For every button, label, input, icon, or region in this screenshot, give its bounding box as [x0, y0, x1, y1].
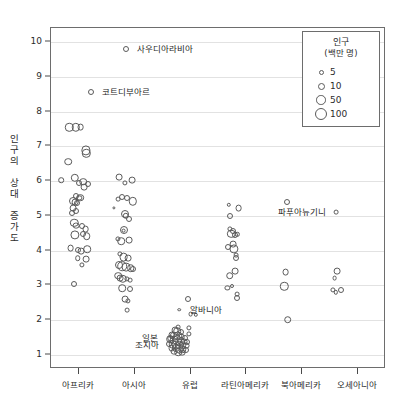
data-point: [284, 199, 290, 205]
data-point: [129, 197, 137, 205]
x-tick-label-2: 아시아: [122, 378, 146, 390]
annotation-파푸아뉴기니: 파푸아뉴기니: [278, 205, 326, 217]
data-point: [179, 349, 186, 356]
data-point: [333, 210, 338, 215]
data-point: [112, 207, 115, 210]
data-point: [125, 307, 130, 312]
gridline: [51, 320, 384, 321]
data-point: [280, 282, 288, 290]
annotation-코트디부아르: 코트디부아르: [102, 85, 150, 97]
data-point: [71, 281, 77, 287]
x-tick-mark: [301, 368, 302, 374]
legend-row: 50: [312, 93, 379, 107]
y-tick-label: 1: [0, 349, 50, 359]
x-tick-label-6: 오세아니아: [337, 378, 377, 390]
legend-row: 100: [312, 107, 379, 121]
data-point: [123, 46, 129, 52]
annotation-조지아: 조지아: [135, 338, 159, 350]
data-point: [235, 232, 239, 236]
y-tick-label: 3: [0, 279, 50, 289]
gridline: [51, 146, 384, 147]
data-point: [118, 237, 126, 245]
data-point: [65, 158, 73, 166]
data-point: [338, 287, 344, 293]
data-point: [58, 178, 64, 184]
data-point: [227, 213, 233, 219]
data-point: [76, 194, 84, 202]
data-point: [75, 256, 81, 262]
data-point: [332, 275, 337, 280]
data-point: [81, 184, 88, 191]
data-point: [226, 203, 230, 207]
data-point: [83, 245, 91, 253]
data-point: [235, 205, 242, 212]
legend-label: 5: [330, 67, 336, 77]
data-point: [282, 269, 289, 276]
x-tick-mark: [134, 368, 135, 374]
data-point: [116, 174, 123, 181]
x-tick-label-4: 라틴아메리카: [221, 378, 269, 390]
y-axis-label-char: [6, 199, 22, 210]
y-tick-label: 5: [0, 210, 50, 220]
data-point: [186, 325, 191, 330]
data-point: [333, 267, 340, 274]
x-tick-mark: [190, 368, 191, 374]
gridline: [51, 251, 384, 252]
gridline: [51, 216, 384, 217]
data-point: [186, 332, 191, 337]
legend-bullet-wrap: [312, 83, 330, 90]
y-axis-label-char: 도: [6, 232, 22, 243]
y-tick-label: 10: [0, 36, 50, 46]
x-tick-mark: [357, 368, 358, 374]
data-point: [130, 266, 136, 272]
gridline: [51, 181, 384, 182]
data-point: [67, 245, 74, 252]
data-point: [234, 295, 240, 301]
legend-label: 50: [330, 95, 341, 105]
data-point: [126, 216, 132, 222]
legend-label: 10: [330, 81, 341, 91]
scatter-chart: 인구의 상대 증가도 10987654321 사우디아라비아코트디부아르파푸아뉴…: [0, 0, 405, 417]
data-point: [129, 177, 136, 184]
legend-subtitle: (백만 명): [303, 48, 379, 59]
legend-circle-icon: [319, 70, 324, 75]
data-point: [88, 89, 94, 95]
data-point: [178, 308, 182, 312]
data-point: [284, 316, 292, 324]
data-point: [79, 263, 84, 268]
data-point: [334, 290, 338, 294]
legend-bullet-wrap: [312, 70, 330, 75]
y-axis-label-char: 의: [6, 155, 22, 166]
y-tick-label: 2: [0, 314, 50, 324]
y-axis-label-char: 가: [6, 221, 22, 232]
data-point: [185, 296, 191, 302]
legend-circle-icon: [316, 95, 326, 105]
gridline: [51, 285, 384, 286]
data-point: [121, 228, 126, 233]
annotation-사우디아라비아: 사우디아라비아: [137, 42, 193, 54]
x-tick-label-3: 유럽: [182, 378, 198, 390]
legend-row: 5: [312, 65, 379, 79]
y-axis-label-char: 대: [6, 188, 22, 199]
annotation-알바니아: 알바니아: [190, 303, 222, 315]
data-point: [77, 124, 84, 131]
x-tick-label-5: 북아메리카: [281, 378, 321, 390]
x-tick-label-1: 아프리카: [62, 378, 94, 390]
legend-items: 51050100: [303, 65, 379, 121]
x-tick-mark: [78, 368, 79, 374]
data-point: [69, 210, 75, 216]
legend-label: 100: [330, 109, 347, 119]
data-point: [127, 286, 133, 292]
data-point: [123, 180, 128, 185]
data-point: [225, 286, 230, 291]
legend-circle-icon: [315, 108, 327, 120]
data-point: [125, 299, 130, 304]
y-tick-label: 4: [0, 245, 50, 255]
size-legend: 인구 (백만 명) 51050100: [302, 31, 380, 127]
x-tick-mark: [245, 368, 246, 374]
data-point: [83, 256, 90, 263]
y-tick-label: 6: [0, 175, 50, 185]
y-tick-label: 9: [0, 71, 50, 81]
data-point: [82, 149, 90, 157]
data-point: [226, 272, 234, 280]
